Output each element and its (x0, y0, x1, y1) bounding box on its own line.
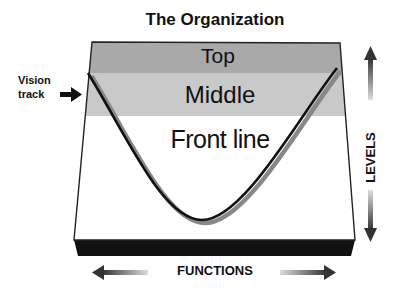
vision-track-line1: Vision (18, 73, 51, 87)
arrow-left-icon (92, 265, 148, 280)
vision-track-line2: track (18, 87, 51, 101)
functions-axis-label: FUNCTIONS (160, 263, 270, 278)
arrow-up-icon (364, 46, 377, 100)
arrow-right-icon (60, 87, 82, 102)
arrow-down-icon (364, 190, 377, 242)
levels-axis-label: LEVELS (363, 128, 378, 188)
band-top-label: Top (188, 44, 248, 68)
box-base (74, 240, 355, 256)
band-middle-label: Middle (160, 81, 280, 109)
vision-track-label: Vision track (18, 73, 51, 101)
band-front-line-label: Front line (150, 125, 290, 154)
arrow-right-icon (280, 265, 336, 280)
